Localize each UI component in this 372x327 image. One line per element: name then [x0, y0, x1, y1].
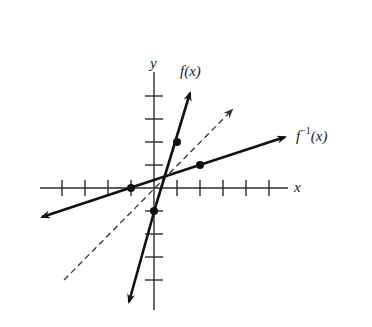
y-axis-label: y — [148, 55, 157, 71]
f-label: f(x) — [180, 63, 201, 80]
f-inverse-line-lower — [42, 178, 160, 217]
x-axis-label: x — [293, 179, 301, 195]
function-inverse-diagram: y x f(x) f−1(x) — [0, 0, 372, 327]
f-line-lower — [129, 205, 156, 302]
f-inverse-arg: (x) — [311, 128, 328, 145]
point-f-0-neg1 — [150, 207, 158, 215]
point-finv-2-1 — [196, 161, 204, 169]
point-f-1-2 — [173, 138, 181, 146]
identity-line — [64, 110, 232, 280]
point-finv-neg1-0 — [127, 184, 135, 192]
f-inverse-label: f−1(x) — [296, 125, 327, 145]
f-inverse-sup: −1 — [300, 125, 311, 136]
